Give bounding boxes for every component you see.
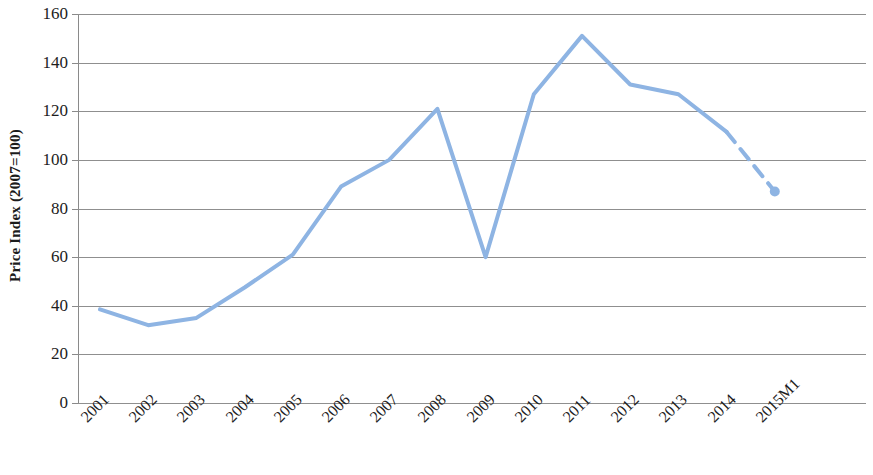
series-line-dashed — [727, 132, 775, 192]
y-axis-tick-label: 80 — [8, 200, 68, 217]
price-index-line-chart: Price Index (2007=100) 16014012010080604… — [0, 0, 873, 475]
y-axis-tick-label: 100 — [8, 151, 68, 168]
y-axis-tick-label: 20 — [8, 345, 68, 362]
y-axis-tick-label: 0 — [8, 394, 68, 411]
y-axis-tick-label: 140 — [8, 54, 68, 71]
y-axis-tickmark — [72, 403, 78, 404]
y-axis-tick-label: 40 — [8, 297, 68, 314]
series-line-solid — [100, 36, 727, 325]
y-axis-tick-label: 60 — [8, 248, 68, 265]
y-axis-tick-label: 160 — [8, 5, 68, 22]
y-axis-tick-label: 120 — [8, 102, 68, 119]
plot-area — [78, 14, 866, 403]
data-point-marker — [770, 186, 780, 196]
series-line — [78, 14, 866, 403]
